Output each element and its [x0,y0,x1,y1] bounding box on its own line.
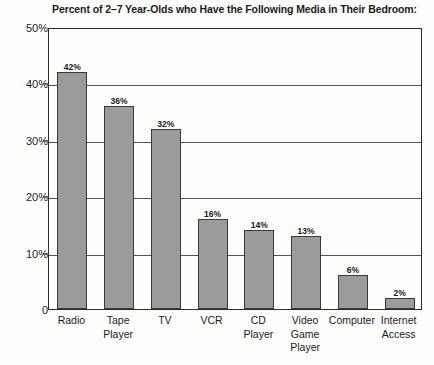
bar-value-label: 14% [234,220,284,230]
x-tick-label: Radio [48,314,95,328]
bar [338,275,368,309]
x-tick-label-line: Access [375,328,422,342]
x-tick-label: Computer [329,314,376,328]
y-tick-label-20: 20% [4,191,48,203]
bar-value-label: 16% [188,209,238,219]
bar [385,298,415,309]
bar-value-label: 42% [47,62,97,72]
x-tick-label: CDPlayer [235,314,282,341]
x-tick-label-line: Player [282,341,329,355]
x-tick-label-line: VCR [188,314,235,328]
chart-title: Percent of 2–7 Year-Olds who Have the Fo… [52,3,428,15]
x-tick-label-line: Game [282,328,329,342]
x-tick-label: TapePlayer [95,314,142,341]
bar [151,129,181,309]
x-tick-label: TV [142,314,189,328]
bar [244,230,274,309]
x-tick-label: InternetAccess [375,314,422,341]
bar-value-label: 36% [94,96,144,106]
bar [291,236,321,309]
x-tick-label: VideoGamePlayer [282,314,329,355]
plot-area: 42%36%32%16%14%13%6%2% [48,28,422,310]
x-tick-label-line: Computer [329,314,376,328]
x-tick-label-line: CD [235,314,282,328]
y-tick-label-10: 10% [4,248,48,260]
x-tick-label-line: TV [142,314,189,328]
bar [57,72,87,309]
y-tick-label-30: 30% [4,135,48,147]
y-tick-label-50: 50% [4,22,48,34]
x-tick-label-line: Tape [95,314,142,328]
bar-value-label: 2% [375,288,425,298]
x-tick-label-line: Internet [375,314,422,328]
bar-value-label: 6% [328,265,378,275]
x-tick-label-line: Radio [48,314,95,328]
x-tick-label-line: Player [235,328,282,342]
y-tick-label-0: 0 [4,304,48,316]
bar-chart-figure: Percent of 2–7 Year-Olds who Have the Fo… [0,0,434,365]
x-tick-label: VCR [188,314,235,328]
bar [104,106,134,309]
bar-value-label: 32% [141,119,191,129]
x-tick-label-line: Video [282,314,329,328]
bar-value-label: 13% [281,226,331,236]
x-tick-label-line: Player [95,328,142,342]
gridline-40 [49,85,421,86]
y-tick-label-40: 40% [4,78,48,90]
bar [198,219,228,309]
